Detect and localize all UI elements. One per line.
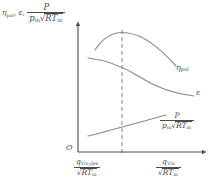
flow-denominator: √RTin xyxy=(156,167,181,178)
curve-power xyxy=(88,115,166,136)
power-radicand: RTin xyxy=(175,121,192,131)
curve-label-eta-pol: ηpol xyxy=(176,63,189,72)
y-axis-power-numerator: P xyxy=(27,3,65,12)
flow-numerator: qVin xyxy=(156,158,181,167)
y-axis-eta-subscript: pol xyxy=(7,13,14,18)
y-axis-temperature-subscript: in xyxy=(57,17,62,23)
design-flow-fraction: qVin,des√RTin xyxy=(74,158,100,178)
power-temperature-subscript: in xyxy=(187,125,191,130)
design-temperature-subscript: in xyxy=(92,172,96,177)
curve-eta-pol xyxy=(95,33,176,66)
design-radical: √RTin xyxy=(77,168,98,178)
plot-canvas xyxy=(0,0,220,190)
design-flow-subscript: Vin,des xyxy=(81,161,98,166)
curve-label-epsilon: ε xyxy=(196,88,200,97)
origin-label: O xyxy=(66,143,73,152)
y-axis-power-denominator: pin√RTin xyxy=(27,12,65,24)
y-axis-radicand: RTin xyxy=(44,13,63,24)
power-denominator: pin√RTin xyxy=(160,120,194,131)
x-axis-label: qVin√RTin xyxy=(156,158,181,178)
power-radical: √RTin xyxy=(171,121,192,131)
design-radicand: RTin xyxy=(80,168,97,178)
power-numerator: P xyxy=(160,112,194,120)
eta-subscript: pol xyxy=(181,66,189,72)
design-flow-denominator: √RTin xyxy=(74,167,100,178)
curve-label-power: Ppin√RTin xyxy=(160,112,194,131)
y-axis-radical: √RTin xyxy=(40,13,63,24)
flow-fraction: qVin√RTin xyxy=(156,158,181,178)
flow-radicand: RTin xyxy=(162,168,179,178)
compressor-performance-chart: ηpol, ε, Ppin√RTin O qVin,des√RTin qVin√… xyxy=(0,0,220,190)
design-flow-numerator: qVin,des xyxy=(74,158,100,167)
flow-radical: √RTin xyxy=(158,168,179,178)
y-axis-label: ηpol, ε, Ppin√RTin xyxy=(2,3,65,24)
power-fraction: Ppin√RTin xyxy=(160,112,194,131)
y-axis-power-fraction: Ppin√RTin xyxy=(27,3,65,24)
flow-subscript: Vin xyxy=(167,161,175,166)
x-axis-design-point-label: qVin,des√RTin xyxy=(74,158,100,178)
flow-temperature-subscript: in xyxy=(173,172,177,177)
